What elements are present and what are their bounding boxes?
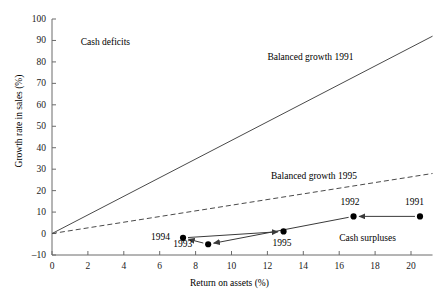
x-tick-label: 4 <box>110 262 138 272</box>
x-tick-label: 18 <box>361 262 389 272</box>
chart-plot-area <box>0 0 437 299</box>
data-point-label: 1991 <box>405 198 424 208</box>
data-point-marker <box>205 241 211 247</box>
x-tick-label: 20 <box>397 262 425 272</box>
x-tick-label: 10 <box>218 262 246 272</box>
y-tick-label: 10 <box>14 208 46 218</box>
y-tick-label: 20 <box>14 187 46 197</box>
x-tick-label: 14 <box>289 262 317 272</box>
data-point-marker <box>417 213 423 219</box>
data-point-marker <box>280 228 286 234</box>
y-tick-label: –10 <box>14 251 46 261</box>
x-tick-label: 12 <box>253 262 281 272</box>
y-tick-label: 0 <box>14 230 46 240</box>
data-point-label: 1995 <box>273 239 292 249</box>
trajectory-arrow <box>188 232 278 238</box>
chart-annotation: Balanced growth 1995 <box>271 172 357 182</box>
chart-annotation: Balanced growth 1991 <box>267 53 353 63</box>
chart-annotation: Cash surpluses <box>339 234 396 244</box>
x-tick-label: 2 <box>74 262 102 272</box>
y-axis-title: Growth rate in sales (%) <box>14 75 24 168</box>
axes-group <box>52 19 433 255</box>
x-tick-label: 6 <box>146 262 174 272</box>
x-tick-label: 0 <box>38 262 66 272</box>
data-point-label: 1992 <box>341 198 360 208</box>
data-point-marker <box>350 213 356 219</box>
y-tick-label: 90 <box>14 36 46 46</box>
y-axis-title-wrapper: Growth rate in sales (%) <box>8 56 26 186</box>
chart-annotation: Cash deficits <box>81 38 130 48</box>
y-tick-label: 100 <box>14 15 46 25</box>
data-point-label: 1994 <box>151 233 170 243</box>
chart-container: 02468101214161820–1001020304050607080901… <box>0 0 437 299</box>
x-tick-label: 16 <box>325 262 353 272</box>
x-axis-title: Return on assets (%) <box>190 279 269 289</box>
reference-lines-group <box>52 36 433 233</box>
data-point-label: 1993 <box>173 240 192 250</box>
x-tick-label: 8 <box>182 262 210 272</box>
